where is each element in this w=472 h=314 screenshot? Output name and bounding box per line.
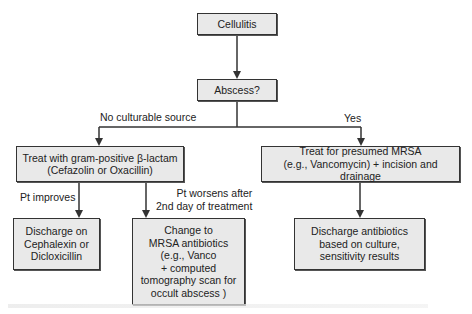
node-label: Discharge on Cephalexin or Dicloxicillin xyxy=(24,225,89,263)
node-label: Discharge antibiotics based on culture, … xyxy=(311,225,408,263)
node-label: Treat for presumed MRSA (e.g., Vancomyci… xyxy=(262,145,459,183)
node-change-mrsa: Change to MRSA antibiotics (e.g., Vanco … xyxy=(132,218,245,305)
node-discharge-culture: Discharge antibiotics based on culture, … xyxy=(294,218,425,270)
edge-label-pt-improves: Pt improves xyxy=(20,191,75,204)
edge-label-pt-worsens: Pt worsens after 2nd day of treatment xyxy=(156,187,252,212)
edge-label-no-source: No culturable source xyxy=(100,111,196,124)
node-discharge-cephalexin: Discharge on Cephalexin or Dicloxicillin xyxy=(13,218,100,270)
edge-label-yes: Yes xyxy=(344,112,361,125)
node-label: Abscess? xyxy=(214,84,260,97)
node-label: Treat with gram-positive β-lactam (Cefaz… xyxy=(22,152,177,177)
node-label: Change to MRSA antibiotics (e.g., Vanco … xyxy=(141,224,237,299)
node-abscess: Abscess? xyxy=(197,79,277,101)
node-cellulitis: Cellulitis xyxy=(197,13,277,35)
node-label: Cellulitis xyxy=(217,18,256,31)
node-treat-gram-positive: Treat with gram-positive β-lactam (Cefaz… xyxy=(16,146,184,182)
faded-caption xyxy=(8,304,428,308)
node-treat-mrsa: Treat for presumed MRSA (e.g., Vancomyci… xyxy=(261,146,460,182)
